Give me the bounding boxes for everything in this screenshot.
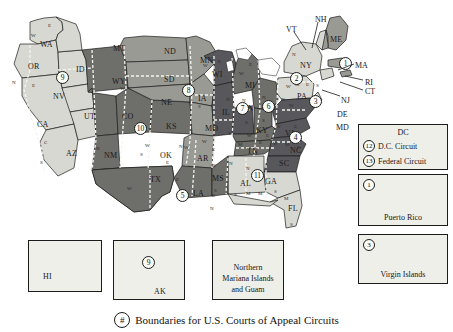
dc-circuit-label: D.C. Circuit (378, 142, 417, 151)
mariana-line-3: and Guam (213, 285, 283, 294)
circuit-badge-1-pr: 1 (363, 179, 375, 191)
mariana-line-2: Mariana Islands (213, 274, 283, 283)
circuit-badge-9-ak: 9 (142, 256, 155, 269)
federal-circuit-label: Federal Circuit (378, 157, 426, 166)
circuit-badge-12: 12 (363, 140, 375, 152)
puerto-rico-inset: 1 Puerto Rico (358, 174, 448, 226)
dc-legend-title: DC (359, 128, 447, 137)
alaska-label: AK (154, 288, 166, 296)
alaska-inset: AK (113, 240, 185, 300)
circuit-badge-10: 10 (134, 122, 147, 135)
dc-legend-box: DC 12 D.C. Circuit 13 Federal Circuit (358, 124, 448, 170)
circuit-badge-2: 2 (290, 72, 303, 85)
figure-caption: # Boundaries for U.S. Courts of Appeal C… (0, 312, 453, 328)
circuit-badge-11: 11 (251, 169, 264, 182)
circuit-badge-3-vi: 3 (363, 239, 375, 251)
circuit-badge-1: 1 (339, 57, 352, 70)
caption-text: Boundaries for U.S. Courts of Appeal Cir… (135, 314, 338, 326)
map-figure: .st{stroke:#1c1c1c;stroke-width:.7;} .lt… (0, 0, 453, 332)
mariana-guam-inset: Northern Mariana Islands and Guam (212, 240, 284, 300)
circuit-badge-3: 3 (309, 95, 322, 108)
virgin-islands-inset: 3 Virgin Islands (358, 234, 448, 284)
dc-legend-row-12: 12 D.C. Circuit (363, 140, 417, 152)
dc-legend-row-13: 13 Federal Circuit (363, 155, 426, 167)
circuit-badge-6: 6 (262, 100, 275, 113)
circuit-badge-13: 13 (363, 155, 375, 167)
mariana-line-1: Northern (213, 263, 283, 272)
virgin-islands-label: Virgin Islands (359, 270, 447, 279)
circuit-badge-7: 7 (236, 102, 249, 115)
hawaii-inset: HI (28, 240, 102, 292)
circuit-badge-9: 9 (56, 71, 69, 84)
circuit-badge-5: 5 (176, 189, 189, 202)
circuit-badge-8: 8 (182, 84, 195, 97)
circuit-badge-4: 4 (289, 131, 302, 144)
hawaii-label: HI (43, 273, 52, 281)
hash-badge: # (114, 312, 130, 328)
puerto-rico-label: Puerto Rico (359, 213, 447, 222)
